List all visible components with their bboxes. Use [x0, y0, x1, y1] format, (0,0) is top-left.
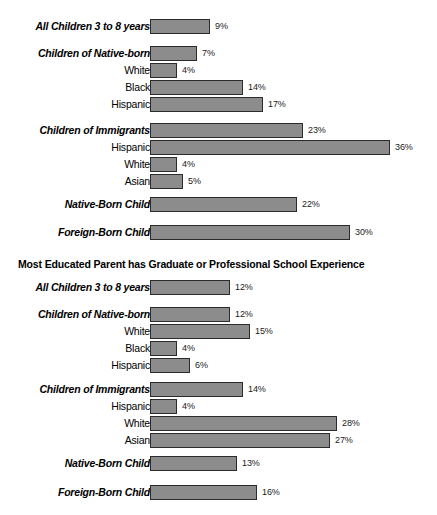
- bar: [150, 46, 197, 61]
- row-label: Children of Immigrants: [39, 122, 150, 139]
- bar-value-label: 30%: [355, 224, 373, 241]
- bar-value-label: 14%: [248, 381, 266, 398]
- bar: [150, 433, 330, 448]
- bar: [150, 97, 263, 112]
- chart-row: Black4%: [0, 340, 437, 357]
- row-label: White: [124, 415, 150, 432]
- bar-value-label: 14%: [248, 79, 266, 96]
- bar-value-label: 5%: [188, 173, 201, 190]
- row-label: Hispanic: [111, 357, 150, 374]
- bar-value-label: 27%: [335, 432, 353, 449]
- row-label: All Children 3 to 8 years: [35, 18, 150, 35]
- bar: [150, 485, 257, 500]
- row-label: Foreign-Born Child: [58, 224, 150, 241]
- bar: [150, 382, 243, 397]
- row-label: Asian: [125, 432, 150, 449]
- chart-row: Children of Native-born7%: [0, 45, 437, 62]
- bar-value-label: 7%: [202, 45, 215, 62]
- row-label: Children of Native-born: [38, 45, 150, 62]
- row-label: Hispanic: [111, 96, 150, 113]
- bar: [150, 225, 350, 240]
- row-label: Black: [125, 79, 150, 96]
- chart-row: Foreign-Born Child30%: [0, 224, 437, 241]
- bar-value-label: 13%: [242, 455, 260, 472]
- row-label: Children of Immigrants: [39, 381, 150, 398]
- row-label: Native-Born Child: [65, 196, 150, 213]
- chart-row: Children of Native-born12%: [0, 306, 437, 323]
- section-heading: Most Educated Parent has Graduate or Pro…: [18, 258, 364, 270]
- chart-canvas: All Children 3 to 8 years9%Children of N…: [0, 0, 437, 515]
- bar-value-label: 22%: [302, 196, 320, 213]
- bar: [150, 123, 303, 138]
- row-label: Native-Born Child: [65, 455, 150, 472]
- chart-row: All Children 3 to 8 years12%: [0, 279, 437, 296]
- row-label: Children of Native-born: [38, 306, 150, 323]
- bar: [150, 63, 177, 78]
- bar-value-label: 4%: [182, 62, 195, 79]
- bar: [150, 197, 297, 212]
- row-label: White: [124, 62, 150, 79]
- row-label: All Children 3 to 8 years: [35, 279, 150, 296]
- chart-row: Foreign-Born Child16%: [0, 484, 437, 501]
- row-label: Black: [125, 340, 150, 357]
- bar: [150, 324, 250, 339]
- bar: [150, 341, 177, 356]
- bar: [150, 399, 177, 414]
- row-label: White: [124, 323, 150, 340]
- bar-value-label: 9%: [215, 18, 228, 35]
- bar-value-label: 4%: [182, 398, 195, 415]
- bar: [150, 358, 190, 373]
- bar: [150, 80, 243, 95]
- chart-row: Native-Born Child13%: [0, 455, 437, 472]
- chart-row: Hispanic17%: [0, 96, 437, 113]
- bar: [150, 157, 177, 172]
- bar: [150, 280, 230, 295]
- bar-value-label: 4%: [182, 340, 195, 357]
- row-label: White: [124, 156, 150, 173]
- chart-row: White4%: [0, 156, 437, 173]
- row-label: Hispanic: [111, 139, 150, 156]
- chart-row: Asian5%: [0, 173, 437, 190]
- chart-row: Black14%: [0, 79, 437, 96]
- chart-row: Hispanic4%: [0, 398, 437, 415]
- chart-row: Children of Immigrants23%: [0, 122, 437, 139]
- bar-value-label: 12%: [235, 306, 253, 323]
- chart-row: Asian27%: [0, 432, 437, 449]
- row-label: Asian: [125, 173, 150, 190]
- bar: [150, 456, 237, 471]
- bar: [150, 19, 210, 34]
- chart-row: Native-Born Child22%: [0, 196, 437, 213]
- bar: [150, 140, 390, 155]
- bar-value-label: 36%: [395, 139, 413, 156]
- chart-row: White4%: [0, 62, 437, 79]
- bar: [150, 174, 183, 189]
- bar-value-label: 15%: [255, 323, 273, 340]
- bar-value-label: 4%: [182, 156, 195, 173]
- bar-value-label: 16%: [262, 484, 280, 501]
- bar-value-label: 17%: [268, 96, 286, 113]
- chart-row: White15%: [0, 323, 437, 340]
- bar-value-label: 28%: [342, 415, 360, 432]
- row-label: Hispanic: [111, 398, 150, 415]
- chart-row: Children of Immigrants14%: [0, 381, 437, 398]
- chart-row: White28%: [0, 415, 437, 432]
- chart-row: Hispanic6%: [0, 357, 437, 374]
- bar-value-label: 12%: [235, 279, 253, 296]
- bar-value-label: 6%: [195, 357, 208, 374]
- bar: [150, 416, 337, 431]
- chart-row: All Children 3 to 8 years9%: [0, 18, 437, 35]
- bar-value-label: 23%: [308, 122, 326, 139]
- bar: [150, 307, 230, 322]
- chart-row: Hispanic36%: [0, 139, 437, 156]
- row-label: Foreign-Born Child: [58, 484, 150, 501]
